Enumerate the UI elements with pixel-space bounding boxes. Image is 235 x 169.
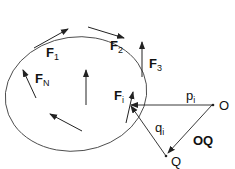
force-diagram: F1 F2 F3 FN Fi pi qi O Q OQ (0, 0, 235, 169)
label-fn: FN (35, 71, 49, 88)
label-f1: F1 (46, 45, 59, 62)
point-o (212, 104, 215, 107)
force-arrow-bottom (50, 114, 82, 131)
label-q: Q (171, 154, 181, 169)
label-fi: Fi (114, 88, 124, 105)
label-o: O (219, 98, 229, 113)
force-arrow-f2 (88, 27, 124, 38)
label-pi: pi (186, 88, 195, 105)
rigid-body-ellipse (0, 28, 154, 161)
label-qi: qi (155, 120, 164, 137)
point-q (165, 155, 168, 158)
label-oq: OQ (193, 133, 213, 148)
label-f2: F2 (110, 38, 123, 55)
label-f3: F3 (149, 56, 162, 73)
